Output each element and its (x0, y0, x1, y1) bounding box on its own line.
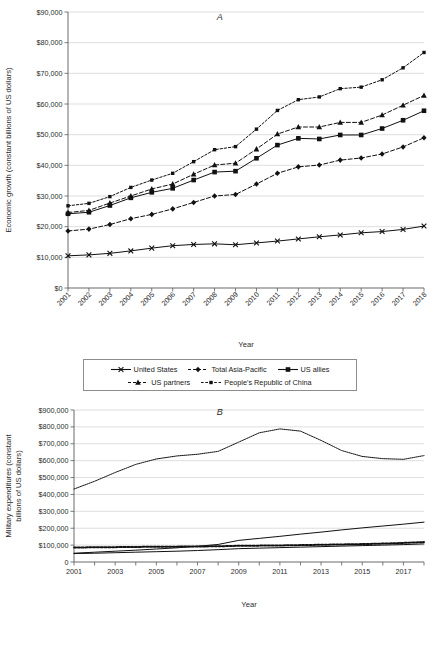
legend-swatch-solid-x (111, 365, 131, 374)
x-axis-title: Year (238, 340, 254, 349)
series-marker (297, 98, 300, 101)
series-marker (213, 148, 216, 151)
x-tick-label: 2007 (180, 290, 198, 308)
series-marker (318, 95, 321, 98)
series-marker (191, 178, 196, 183)
x-tick-label: 2015 (348, 290, 366, 308)
x-tick-label: 2017 (390, 290, 408, 308)
chart-a-legend: United StatesTotal Asia-PacificUS allies… (83, 359, 357, 391)
y-tick-label: $10,000 (37, 253, 63, 262)
x-tick-label: 2004 (118, 290, 136, 308)
series-marker (359, 133, 364, 138)
x-tick-label: 2001 (55, 290, 73, 308)
legend-item-united-states[interactable]: United States (111, 365, 178, 374)
y-tick-label: $300,000 (39, 507, 69, 516)
legend-item-label: People's Republic of China (224, 379, 311, 386)
series-marker (359, 85, 362, 88)
legend-swatch-dotted-diamond (188, 365, 208, 374)
series-marker (422, 108, 427, 113)
series-marker (401, 118, 406, 123)
series-marker (212, 170, 217, 175)
series-marker (255, 127, 258, 130)
series-marker (191, 200, 196, 206)
series-marker (128, 216, 133, 222)
x-tick-label: 2011 (265, 290, 282, 307)
x-tick-label: 2012 (285, 290, 303, 308)
x-tick-label: 2002 (76, 290, 94, 308)
series-marker (379, 112, 385, 117)
series-marker (359, 155, 364, 161)
series-marker (254, 181, 259, 187)
series-marker (275, 131, 281, 136)
series-marker (170, 206, 175, 212)
x-tick-label: 2009 (222, 290, 240, 308)
legend-item-total-asia-pacific[interactable]: Total Asia-Pacific (188, 365, 266, 374)
series-marker (171, 172, 174, 175)
legend-item-us-partners[interactable]: US partners (128, 378, 190, 387)
series-line-us-partners (68, 95, 424, 212)
legend-swatch-dashed-square (201, 378, 221, 387)
panel-a-title: A (0, 12, 440, 22)
y-tick-label: 0 (65, 558, 69, 567)
y-axis-title: Economic growth (constant billions of US… (4, 67, 13, 232)
legend-row: US partnersPeople's Republic of China (90, 376, 350, 389)
series-marker (421, 92, 427, 97)
series-marker (422, 51, 425, 54)
legend-item-us-allies[interactable]: US allies (278, 365, 330, 374)
series-marker (296, 136, 301, 141)
series-marker (108, 195, 111, 198)
chart-a-canvas: $0$10,000$20,000$30,000$40,000$50,000$60… (0, 0, 440, 350)
x-tick-label: 2005 (148, 567, 164, 576)
series-marker (275, 143, 280, 148)
legend-item-label: US partners (151, 379, 190, 386)
y-tick-label: $100,000 (39, 541, 69, 550)
figure-b: B 0$100,000$200,000$300,000$400,000$500,… (0, 400, 440, 649)
x-tick-label: 2007 (190, 567, 206, 576)
chart-b-canvas: 0$100,000$200,000$300,000$400,000$500,00… (0, 400, 440, 610)
x-tick-label: 2001 (66, 567, 82, 576)
x-tick-label: 2003 (97, 290, 115, 308)
x-tick-label: 2013 (306, 290, 324, 308)
series-marker (317, 162, 322, 168)
panel-b-title: B (0, 407, 440, 417)
series-marker (254, 146, 260, 151)
y-axis-title: Military expenditures (constant (4, 434, 13, 538)
legend-swatch-solid-square (278, 365, 298, 374)
series-marker (400, 144, 405, 150)
y-tick-label: $200,000 (39, 524, 69, 533)
series-marker (233, 192, 238, 198)
y-tick-label: $60,000 (37, 100, 63, 109)
y-tick-label: $50,000 (37, 130, 63, 139)
legend-item-people-s-republic-of-china[interactable]: People's Republic of China (201, 378, 311, 387)
series-marker (380, 78, 383, 81)
series-line-united-states (74, 429, 424, 489)
legend-marker (196, 367, 201, 373)
series-line-people-s-republic-of-china (68, 52, 424, 205)
x-axis-title: Year (241, 600, 257, 609)
x-tick-label: 2018 (411, 290, 429, 308)
legend-swatch-dotted-triangle (128, 378, 148, 387)
x-tick-label: 2003 (107, 567, 123, 576)
series-marker (170, 186, 175, 191)
series-marker (87, 202, 90, 205)
y-tick-label: $400,000 (39, 490, 69, 499)
series-marker (86, 226, 91, 232)
series-line-allies (74, 542, 424, 547)
y-tick-label: $30,000 (37, 192, 63, 201)
x-tick-label: 2014 (327, 290, 345, 308)
legend-marker (210, 381, 213, 384)
legend-row: United StatesTotal Asia-PacificUS allies (90, 363, 350, 376)
legend-item-label: United States (134, 366, 178, 373)
y-tick-label: $600,000 (39, 456, 69, 465)
series-marker (339, 87, 342, 90)
y-axis-title: billions of US dollars) (14, 450, 23, 522)
series-marker (401, 66, 404, 69)
x-tick-label: 2013 (313, 567, 329, 576)
series-marker (212, 193, 217, 199)
series-marker (400, 102, 406, 107)
series-marker (380, 126, 385, 131)
y-tick-label: $500,000 (39, 473, 69, 482)
series-marker (275, 171, 280, 177)
series-marker (170, 181, 176, 186)
x-tick-label: 2005 (139, 290, 157, 308)
